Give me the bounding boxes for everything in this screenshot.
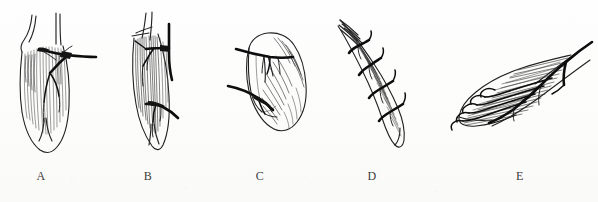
panel-c [216,0,328,168]
panel-d-drawing [328,0,440,168]
tendon-strands-a [21,13,61,52]
muscle-outline-d [338,20,404,147]
caption-c-label: C [256,169,265,183]
panel-e-drawing [440,0,598,168]
caption-e: E [500,168,540,184]
distal-tendon-b [149,124,159,145]
panel-b [108,0,216,168]
nerve-branch-2-d [359,48,383,79]
panel-e [440,0,598,168]
panel-b-drawing [108,0,216,168]
caption-c: C [240,168,280,184]
muscle-outline-c [247,33,307,131]
nerve-branch-3-d [369,70,395,103]
caption-e-label: E [516,169,524,183]
caption-a-label: A [36,169,45,183]
panel-a [0,0,108,168]
nerve-trunk-e [489,42,592,123]
caption-b-label: B [144,169,153,183]
caption-d-label: D [367,169,376,183]
caption-a: A [21,168,61,184]
panel-a-drawing [0,0,108,168]
anatomical-figure: A B C D E [0,0,598,202]
panel-c-drawing [216,0,328,168]
caption-d: D [352,168,392,184]
caption-b: B [128,168,168,184]
panel-d [328,0,440,168]
